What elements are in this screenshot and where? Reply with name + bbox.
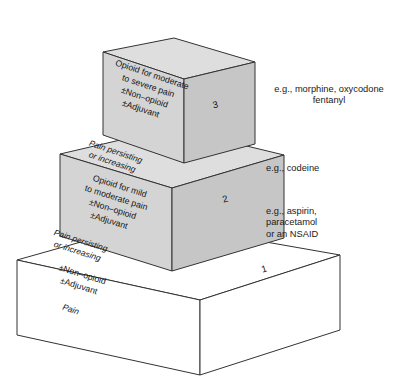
side-label-step-2: e.g., codeine	[266, 163, 392, 174]
who-analgesic-ladder-diagram: 1 2 3 Opioid for moderate to s	[0, 0, 396, 385]
side-label-step-3: e.g., morphine, oxycodone fentanyl	[266, 84, 392, 107]
side-label-step-1: e.g., aspirin, paracetamol or an NSAID	[266, 206, 392, 240]
ladder-illustration: 1 2 3 Opioid for moderate to s	[0, 0, 396, 385]
